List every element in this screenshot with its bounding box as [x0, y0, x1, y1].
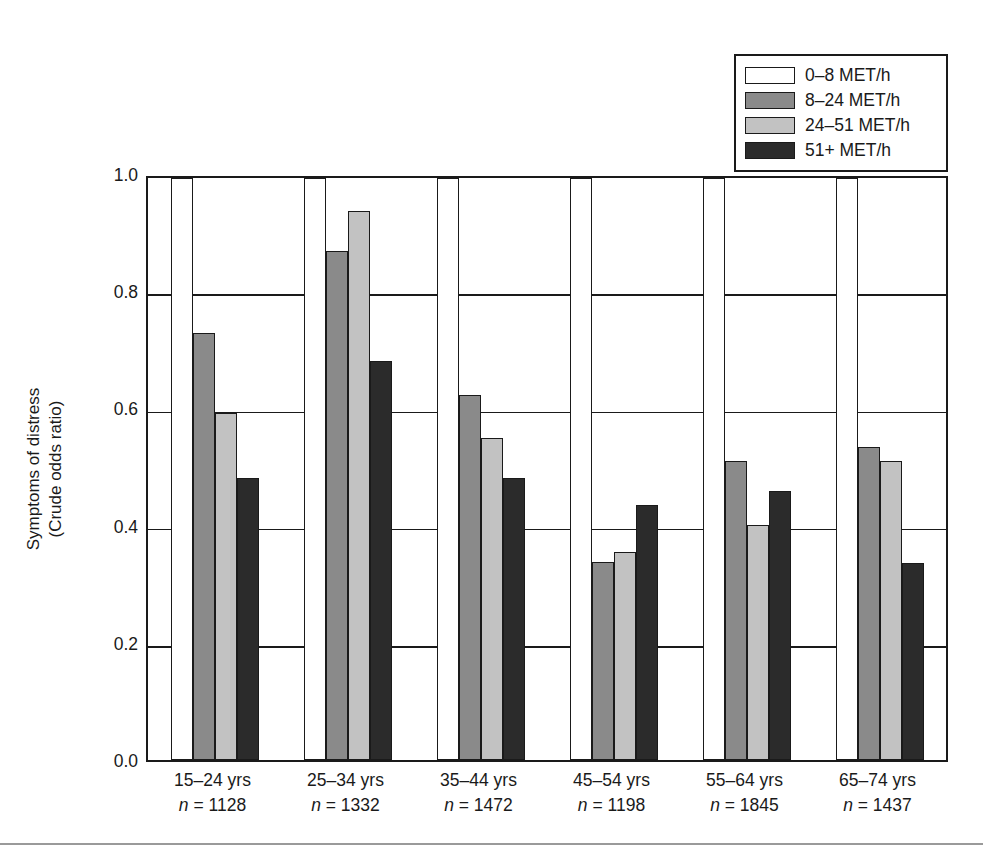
legend-item: 51+ MET/h [745, 138, 938, 163]
legend-item: 8–24 MET/h [745, 88, 938, 113]
x-axis-n-label: n = 1198 [545, 793, 678, 818]
y-axis-tick-label: 0.8 [86, 284, 138, 302]
x-axis-age-label: 45–54 yrs [545, 768, 678, 793]
legend-item-label: 0–8 MET/h [805, 67, 891, 85]
bar [703, 178, 725, 760]
bar [437, 178, 459, 760]
bar [370, 361, 392, 760]
x-axis-n-label: n = 1845 [678, 793, 811, 818]
bar [769, 491, 791, 760]
bar [237, 478, 259, 760]
bar [636, 505, 658, 760]
x-axis-group-label: 25–34 yrsn = 1332 [279, 768, 412, 818]
legend-item: 0–8 MET/h [745, 63, 938, 88]
bar-group [304, 178, 392, 760]
x-axis-group-label: 65–74 yrsn = 1437 [811, 768, 944, 818]
bar [592, 562, 614, 760]
chart-legend: 0–8 MET/h8–24 MET/h24–51 MET/h51+ MET/h [734, 54, 948, 172]
x-axis-group-label: 55–64 yrsn = 1845 [678, 768, 811, 818]
x-axis-n-label: n = 1472 [412, 793, 545, 818]
legend-item-label: 8–24 MET/h [805, 92, 900, 110]
figure-bar-chart: 0–8 MET/h8–24 MET/h24–51 MET/h51+ MET/h … [0, 0, 983, 863]
x-axis-group-label: 45–54 yrsn = 1198 [545, 768, 678, 818]
x-axis-n-label: n = 1437 [811, 793, 944, 818]
y-axis-tick-label: 0.4 [86, 519, 138, 537]
legend-item: 24–51 MET/h [745, 113, 938, 138]
plot-inner [148, 178, 946, 760]
legend-swatch-icon [745, 142, 795, 159]
bar [747, 525, 769, 760]
bar [725, 461, 747, 760]
legend-item-label: 24–51 MET/h [805, 117, 910, 135]
bar [481, 438, 503, 760]
bar [304, 178, 326, 760]
gridline [148, 412, 946, 414]
bar [171, 178, 193, 760]
x-axis-age-label: 15–24 yrs [146, 768, 279, 793]
x-axis-age-label: 35–44 yrs [412, 768, 545, 793]
x-axis-n-label: n = 1332 [279, 793, 412, 818]
bar-group [703, 178, 791, 760]
gridline [148, 646, 946, 648]
bar-group [437, 178, 525, 760]
x-axis-age-label: 65–74 yrs [811, 768, 944, 793]
bar-group [836, 178, 924, 760]
bar [902, 563, 924, 760]
legend-swatch-icon [745, 117, 795, 134]
y-axis-title-line1: Symptoms of distress [24, 388, 43, 551]
y-axis-tick-label: 1.0 [86, 167, 138, 185]
x-axis-n-label: n = 1128 [146, 793, 279, 818]
x-axis-age-label: 25–34 yrs [279, 768, 412, 793]
y-axis-tick-label: 0.2 [86, 636, 138, 654]
bar [459, 395, 481, 760]
legend-item-label: 51+ MET/h [805, 142, 891, 160]
bar [880, 461, 902, 760]
y-axis-tick-labels: 0.00.20.40.60.81.0 [78, 176, 138, 762]
y-axis-title: Symptoms of distress (Crude odds ratio) [22, 176, 68, 762]
bar [348, 211, 370, 760]
x-axis-group-label: 15–24 yrsn = 1128 [146, 768, 279, 818]
y-axis-tick-label: 0.0 [86, 753, 138, 771]
plot-area [146, 176, 948, 762]
legend-swatch-icon [745, 92, 795, 109]
gridline [148, 529, 946, 531]
y-axis-tick-label: 0.6 [86, 402, 138, 420]
x-axis-tick-labels: 15–24 yrsn = 112825–34 yrsn = 133235–44 … [146, 768, 948, 838]
bar [858, 447, 880, 760]
bar-group [171, 178, 259, 760]
figure-bottom-rule [0, 843, 983, 845]
x-axis-age-label: 55–64 yrs [678, 768, 811, 793]
y-axis-title-line2: (Crude odds ratio) [45, 388, 67, 551]
bar-group [570, 178, 658, 760]
bar [570, 178, 592, 760]
bar [836, 178, 858, 760]
bar [614, 552, 636, 760]
bar [215, 413, 237, 760]
bar [503, 478, 525, 760]
legend-swatch-icon [745, 67, 795, 84]
x-axis-group-label: 35–44 yrsn = 1472 [412, 768, 545, 818]
bar [193, 333, 215, 760]
bar [326, 251, 348, 760]
gridline [148, 294, 946, 296]
